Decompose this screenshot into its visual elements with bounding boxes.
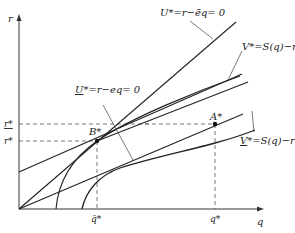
q-star-tick: q* xyxy=(210,214,221,224)
point-B xyxy=(95,139,99,143)
q-axis-arrow xyxy=(257,207,264,212)
U-lower-label: U*=r−eq= 0 xyxy=(75,84,141,95)
V-lower-label: V*=S(q)−r xyxy=(240,135,295,146)
equilibrium-diagram: r q B* A* r* r* q̄* q* U*=r−ēq= 0 U*=r−e… xyxy=(0,0,295,233)
r-axis-label: r xyxy=(8,13,14,24)
q-bar-tick: q̄* xyxy=(91,214,102,224)
V-lower-leader xyxy=(252,111,254,132)
r-lower-tick: r* xyxy=(4,136,13,146)
point-A-label: A* xyxy=(209,111,222,122)
U-upper-leader xyxy=(190,21,213,39)
U-upper-line xyxy=(19,22,236,209)
q-axis-label: q xyxy=(257,216,263,227)
point-A xyxy=(213,122,217,126)
r-upper-tick: r* xyxy=(4,119,13,129)
r-axis-arrow xyxy=(17,14,22,21)
U-upper-label: U*=r−ēq= 0 xyxy=(160,7,226,18)
V-upper-label: V*=S(q)−r xyxy=(242,41,295,52)
V-lower-curve xyxy=(82,130,255,209)
point-B-label: B* xyxy=(88,126,101,137)
V-upper-leader xyxy=(228,51,242,80)
